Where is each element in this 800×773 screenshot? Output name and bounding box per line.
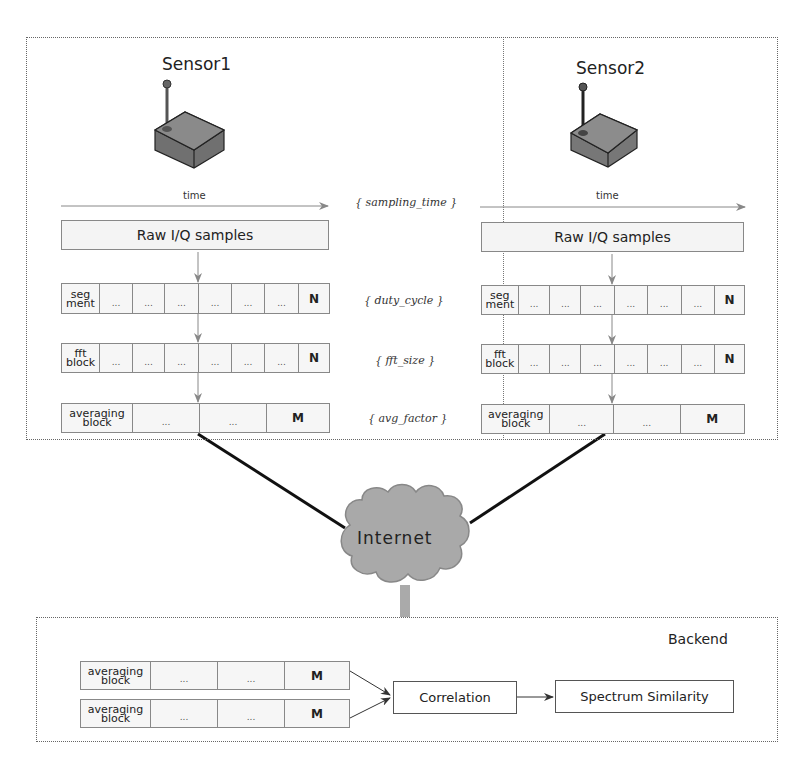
fft-cell: ...	[100, 344, 133, 372]
fft-cell: ...	[648, 345, 682, 373]
param-avg-factor: { avg_factor }	[368, 412, 447, 425]
segment-cell: ...	[199, 284, 232, 313]
internet-label: Internet	[357, 528, 433, 548]
sensor2-time-label: time	[596, 190, 619, 201]
segment-cell: ...	[615, 286, 648, 314]
sensor1-title: Sensor1	[162, 54, 231, 74]
segment-head: seg ment	[482, 286, 519, 314]
param-duty-cycle: { duty_cycle }	[364, 294, 444, 307]
segment-cell: ...	[648, 286, 682, 314]
raw-iq-label: Raw I/Q samples	[137, 227, 253, 243]
sensor2-averaging-row: averaging block ... ... M	[481, 404, 745, 434]
averaging-end: M	[681, 405, 745, 433]
head-line: ment	[66, 299, 95, 308]
segment-cell: ...	[581, 286, 615, 314]
link-sensor1-internet	[198, 434, 345, 528]
fft-head: fft block	[62, 344, 100, 372]
fft-cell: ...	[615, 345, 648, 373]
head-line: block	[101, 714, 130, 723]
fft-cell: ...	[265, 344, 299, 372]
sensor1-fft-row: fft block ... ... ... ... ... ... N	[61, 343, 330, 373]
segment-cell: ...	[165, 284, 199, 313]
sensor1-averaging-row: averaging block ... ... M	[61, 403, 330, 433]
averaging-cell: ...	[550, 405, 614, 433]
segment-cell: ...	[519, 286, 551, 314]
sensor2-title: Sensor2	[576, 58, 645, 78]
segment-cell: ...	[265, 284, 299, 313]
head-line: block	[82, 418, 111, 427]
averaging-head: averaging block	[81, 662, 151, 689]
segment-end: N	[715, 286, 744, 314]
sensor2-raw-iq-box: Raw I/Q samples	[481, 222, 744, 252]
fft-cell: ...	[133, 344, 165, 372]
fft-cell: ...	[165, 344, 199, 372]
sensor2-segment-row: seg ment ... ... ... ... ... ... N	[481, 285, 745, 315]
backend-input-row-1: averaging block ... ... M	[80, 661, 350, 690]
spectrum-similarity-label: Spectrum Similarity	[580, 689, 709, 704]
param-sampling-time: { sampling_time }	[355, 196, 457, 209]
link-sensor2-internet	[470, 434, 605, 523]
averaging-end: M	[285, 662, 349, 689]
spectrum-similarity-box: Spectrum Similarity	[555, 680, 734, 713]
fft-cell: ...	[232, 344, 265, 372]
head-line: block	[101, 676, 130, 685]
averaging-end: M	[285, 700, 349, 727]
head-line: block	[485, 359, 514, 368]
segment-end: N	[299, 284, 329, 313]
sensor1-raw-iq-box: Raw I/Q samples	[61, 220, 329, 250]
head-line: block	[501, 419, 530, 428]
fft-head: fft block	[482, 345, 519, 373]
raw-iq-label: Raw I/Q samples	[554, 229, 670, 245]
averaging-cell: ...	[151, 662, 218, 689]
fft-cell: ...	[581, 345, 615, 373]
averaging-end: M	[267, 404, 329, 432]
averaging-head: averaging block	[62, 404, 133, 432]
link-internet-backend	[400, 585, 410, 617]
averaging-head: averaging block	[482, 405, 550, 433]
sensor2-fft-row: fft block ... ... ... ... ... ... N	[481, 344, 745, 374]
head-line: block	[66, 358, 95, 367]
averaging-cell: ...	[133, 404, 200, 432]
sensor1-time-label: time	[183, 190, 206, 201]
fft-end: N	[715, 345, 744, 373]
head-line: ment	[485, 300, 514, 309]
averaging-cell: ...	[614, 405, 681, 433]
averaging-cell: ...	[200, 404, 267, 432]
segment-cell: ...	[100, 284, 133, 313]
correlation-label: Correlation	[419, 690, 491, 705]
correlation-box: Correlation	[393, 681, 517, 714]
segment-cell: ...	[232, 284, 265, 313]
segment-cell: ...	[550, 286, 581, 314]
param-fft-size: { fft_size }	[375, 354, 435, 367]
segment-cell: ...	[682, 286, 716, 314]
fft-cell: ...	[550, 345, 581, 373]
fft-cell: ...	[199, 344, 232, 372]
sensor1-segment-row: seg ment ... ... ... ... ... ... N	[61, 283, 330, 314]
backend-input-row-2: averaging block ... ... M	[80, 699, 350, 728]
averaging-cell: ...	[151, 700, 218, 727]
averaging-head: averaging block	[81, 700, 151, 727]
fft-cell: ...	[519, 345, 551, 373]
backend-title: Backend	[668, 631, 728, 647]
fft-cell: ...	[682, 345, 716, 373]
segment-head: seg ment	[62, 284, 100, 313]
segment-cell: ...	[133, 284, 165, 313]
fft-end: N	[299, 344, 329, 372]
averaging-cell: ...	[218, 662, 285, 689]
averaging-cell: ...	[218, 700, 285, 727]
